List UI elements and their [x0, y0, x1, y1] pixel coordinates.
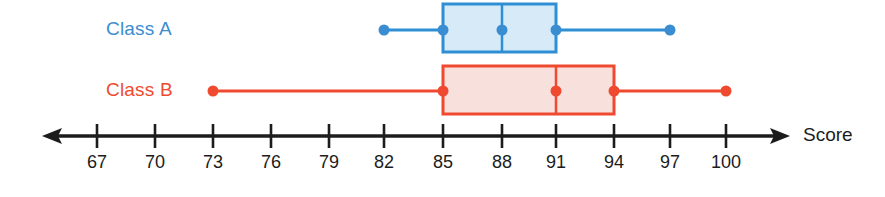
axis-tick-label: 85 [433, 152, 453, 173]
axis-tick-label: 88 [492, 152, 512, 173]
axis-tick-label: 73 [203, 152, 223, 173]
series-label-class-a: Class A [106, 18, 172, 40]
series-class-b [208, 66, 732, 114]
class-a-median-dot [497, 25, 508, 36]
class-a-q1-dot [438, 25, 449, 36]
class-a-min-dot [379, 25, 390, 36]
axis-tick-label: 70 [145, 152, 165, 173]
class-b-min-dot [208, 86, 219, 97]
axis-tick-label: 82 [374, 152, 394, 173]
axis-tick-label: 97 [660, 152, 680, 173]
class-b-q1-dot [438, 86, 449, 97]
class-b-box [443, 66, 614, 114]
class-b-median-dot [551, 86, 562, 97]
axis-tick-label: 76 [261, 152, 281, 173]
class-b-q3-dot [609, 86, 620, 97]
class-a-max-dot [665, 25, 676, 36]
series-class-a [379, 4, 676, 52]
class-a-q3-dot [551, 25, 562, 36]
number-line-axis [42, 124, 790, 148]
axis-tick-label: 94 [604, 152, 624, 173]
axis-tick-label: 91 [546, 152, 566, 173]
axis-tick-label: 100 [711, 152, 741, 173]
axis-tick-label: 79 [319, 152, 339, 173]
class-b-max-dot [721, 86, 732, 97]
axis-tick-label: 67 [87, 152, 107, 173]
box-plot-figure: Class A Class B Score 67 70 73 76 79 82 … [0, 0, 885, 197]
series-label-class-b: Class B [106, 79, 173, 101]
axis-title-score: Score [803, 124, 853, 146]
